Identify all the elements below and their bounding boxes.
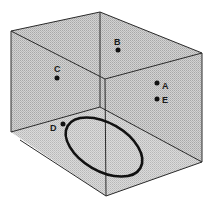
point-c-label: C	[54, 64, 61, 74]
point-b-dot	[116, 48, 121, 53]
point-a-dot	[155, 81, 160, 86]
box-diagram: A B C D E	[0, 0, 217, 215]
point-b-label: B	[114, 37, 121, 47]
point-c-dot	[55, 76, 60, 81]
point-a-label: A	[162, 81, 169, 91]
point-d-label: D	[50, 123, 57, 133]
point-e-label: E	[162, 95, 168, 105]
point-e-dot	[155, 97, 160, 102]
point-d-dot	[61, 122, 66, 127]
